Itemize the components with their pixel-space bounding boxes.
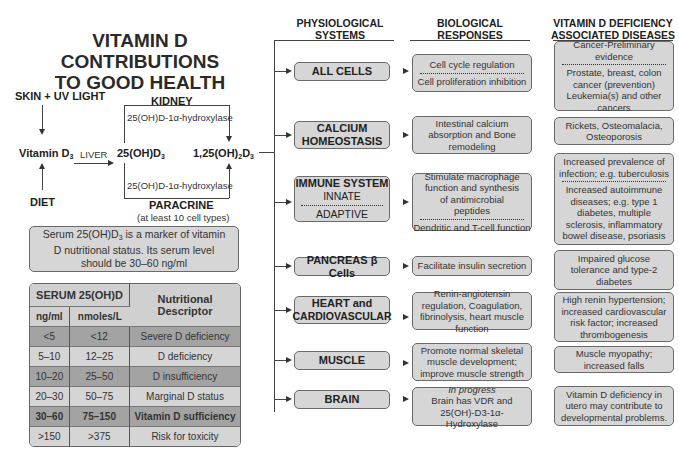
serum-marker-note: Serum 25(OH)D3 is a marker of vitamin D … <box>29 226 239 272</box>
disease-all-cells: Cancer-Preliminary evidenceProstate, bre… <box>554 41 674 111</box>
disease-calcium-homeostasis: Rickets, Osteomalacia, Osteoporosis <box>554 117 674 145</box>
arrow-right-icon <box>403 132 409 138</box>
diseases-column-header: VITAMIN D DEFICIENCY ASSOCIATED DISEASES <box>549 17 677 41</box>
response-all-cells: Cell cycle regulationCell proliferation … <box>412 54 532 92</box>
paracrine-enzyme-label: 25(OH)D-1α-hydroxylase <box>127 180 233 191</box>
systems-trunk-line <box>274 40 275 412</box>
pathway-to-systems-line <box>259 152 274 153</box>
table-row: <5<12Severe D deficiency <box>30 327 240 347</box>
arrow-right-icon <box>286 307 292 313</box>
system-heart-cardiovascular: HEART andCARDIOVASCULAR <box>294 296 390 324</box>
arrow-up-icon <box>226 163 232 169</box>
system-muscle: MUSCLE <box>294 351 390 370</box>
responses-column-header: BIOLOGICAL RESPONSES <box>420 17 520 41</box>
table-row: 20–3050–75Marginal D status <box>30 387 240 407</box>
arrow-right-icon <box>286 263 292 269</box>
25ohd3-label: 25(OH)D3 <box>117 147 165 160</box>
kidney-loop-top <box>124 105 229 106</box>
disease-heart-cardiovascular: High renin hypertension; increased cardi… <box>554 292 674 342</box>
kidney-loop-left <box>124 105 125 143</box>
table-row: >150>375Risk for toxicity <box>30 427 240 446</box>
serum-header: SERUM 25(OH)D <box>30 284 130 307</box>
title-line-1: VITAMIN D CONTRIBUTIONS <box>30 30 250 72</box>
system-calcium-homeostasis: CALCIUMHOMEOSTASIS <box>294 121 390 149</box>
descriptor-header: Nutritional Descriptor <box>130 284 240 327</box>
skin-arrow-line <box>42 105 43 130</box>
response-pancreas: Facilitate insulin secretion <box>412 256 532 276</box>
disease-brain: Vitamin D deficiency in utero may contri… <box>554 386 674 426</box>
arrow-right-icon <box>108 160 114 166</box>
system-all-cells: ALL CELLS <box>294 62 390 81</box>
diagram-title: VITAMIN D CONTRIBUTIONS TO GOOD HEALTH <box>30 30 250 93</box>
response-muscle: Promote normal skeletal muscle developme… <box>412 343 532 381</box>
arrow-right-icon <box>403 360 409 366</box>
liver-arrow-line <box>74 163 109 164</box>
response-immune: Stimulate macrophage function and synthe… <box>412 173 532 231</box>
table-row: 5–1012–25D deficiency <box>30 347 240 367</box>
disease-immune: Increased prevalence of infection; e.g. … <box>554 153 674 245</box>
125oh2d3-label: 1,25(OH)2D3 <box>193 147 254 160</box>
arrow-down-icon <box>39 129 45 135</box>
paracrine-loop-left <box>124 163 125 198</box>
systems-column-header: PHYSIOLOGICAL SYSTEMS <box>285 17 395 41</box>
skin-uv-label: SKIN + UV LIGHT <box>15 90 105 102</box>
diet-arrow-line <box>42 168 43 190</box>
responses-header-rule <box>410 40 530 41</box>
arrow-right-icon <box>403 199 409 205</box>
arrow-right-icon <box>286 396 292 402</box>
arrow-right-icon <box>403 314 409 320</box>
kidney-enzyme-label: 25(OH)D-1α-hydroxylase <box>127 112 233 123</box>
disease-muscle: Muscle myopathy; increased falls <box>554 346 674 373</box>
paracrine-label: PARACRINE <box>149 199 214 211</box>
liver-label: LIVER <box>80 149 107 160</box>
vitamin-d3-label: Vitamin D3 <box>19 147 73 160</box>
response-heart-cardiovascular: Renin-angiotensin regulation, Coagulatio… <box>412 292 532 330</box>
arrow-right-icon <box>286 68 292 74</box>
arrow-right-icon <box>403 396 409 402</box>
arrow-right-icon <box>286 132 292 138</box>
arrow-right-icon <box>403 68 409 74</box>
system-brain: BRAIN <box>294 390 390 409</box>
system-immune: IMMUNE SYSTEM INNATE ADAPTIVE <box>294 176 390 222</box>
system-pancreas: PANCREAS β Cells <box>294 257 390 276</box>
systems-header-rule <box>274 40 394 41</box>
table-row: 30–6075–150Vitamin D sufficiency <box>30 407 240 427</box>
response-brain: In progressBrain has VDR and 25(OH)-D3-1… <box>412 387 532 426</box>
diet-label: DIET <box>30 196 55 208</box>
paracrine-note: (at least 10 cell types) <box>137 212 229 223</box>
disease-pancreas: Impaired glucose tolerance and type-2 di… <box>554 250 674 290</box>
arrow-right-icon <box>286 199 292 205</box>
arrow-down-icon <box>226 136 232 142</box>
arrow-right-icon <box>286 357 292 363</box>
ngml-header: ng/ml <box>30 307 70 327</box>
serum-level-table: SERUM 25(OH)D Nutritional Descriptor ng/… <box>29 283 241 447</box>
table-row: 10–2025–50D insufficiency <box>30 367 240 387</box>
nmol-header: nmoles/L <box>70 307 130 327</box>
response-calcium-homeostasis: Intestinal calcium absorption and Bone r… <box>412 116 532 154</box>
arrow-right-icon <box>403 263 409 269</box>
